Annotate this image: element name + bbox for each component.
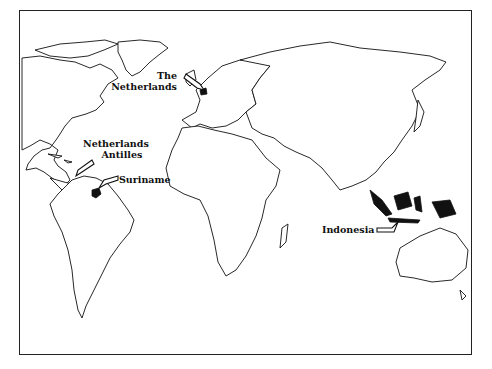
antilles-label-line1: Netherlands: [83, 138, 149, 149]
north-america: [22, 56, 118, 186]
arctic-islands: [35, 40, 118, 58]
indonesia-label: Indonesia: [322, 224, 374, 235]
indonesia-arrow: [377, 222, 398, 232]
south-america: [50, 176, 134, 318]
madagascar: [280, 224, 288, 248]
antilles-label-line2: Antilles: [83, 149, 149, 160]
new-zealand: [460, 290, 466, 300]
suriname-label: Suriname: [119, 174, 171, 185]
antilles-arrow: [76, 160, 94, 176]
netherlands-label-line1: The: [111, 70, 177, 81]
africa: [166, 126, 280, 276]
indonesia-fill: [370, 190, 456, 223]
netherlands-label: The Netherlands: [111, 70, 177, 92]
australia: [396, 228, 468, 282]
antilles-label: Netherlands Antilles: [83, 138, 149, 160]
world-map: [0, 0, 492, 369]
netherlands-label-line2: Netherlands: [111, 81, 177, 92]
